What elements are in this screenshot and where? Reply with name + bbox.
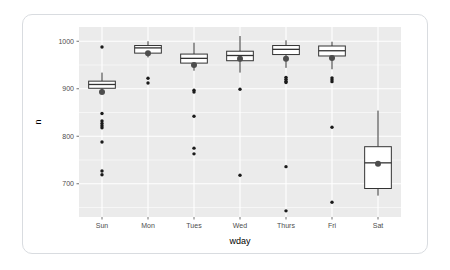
- outlier-point: [192, 90, 195, 93]
- box-iqr: [273, 46, 300, 55]
- outlier-point: [330, 80, 333, 83]
- y-tick-label: 900: [62, 85, 74, 92]
- x-axis-ticks: SunMonTuesWedThursFriSat: [96, 217, 384, 229]
- mean-point: [99, 89, 105, 95]
- outlier-point: [146, 77, 149, 80]
- y-tick-label: 1000: [58, 38, 74, 45]
- outlier-point: [100, 126, 103, 129]
- mean-point: [329, 55, 335, 61]
- outlier-point: [192, 152, 195, 155]
- x-tick-label: Wed: [233, 222, 247, 229]
- outlier-point: [100, 112, 103, 115]
- outlier-point: [238, 88, 241, 91]
- boxplot-chart: 7008009001000 SunMonTuesWedThursFriSat n…: [23, 15, 429, 255]
- x-tick-label: Thurs: [277, 222, 295, 229]
- outlier-point: [330, 126, 333, 129]
- outlier-point: [238, 174, 241, 177]
- outlier-point: [284, 209, 287, 212]
- outlier-point: [100, 169, 103, 172]
- mean-point: [237, 56, 243, 62]
- outlier-point: [192, 115, 195, 118]
- outlier-point: [330, 201, 333, 204]
- y-axis-title: n: [33, 119, 43, 124]
- mean-point: [283, 56, 289, 62]
- mean-point: [375, 161, 381, 167]
- outlier-point: [284, 81, 287, 84]
- outlier-point: [284, 165, 287, 168]
- y-axis-ticks: 7008009001000: [58, 38, 79, 188]
- box-iqr: [365, 147, 392, 189]
- outlier-point: [100, 140, 103, 143]
- outlier-point: [146, 81, 149, 84]
- outlier-point: [100, 45, 103, 48]
- mean-point: [145, 50, 151, 56]
- x-tick-label: Sat: [373, 222, 384, 229]
- outlier-point: [100, 173, 103, 176]
- y-tick-label: 800: [62, 133, 74, 140]
- x-tick-label: Fri: [328, 222, 337, 229]
- x-tick-label: Tues: [186, 222, 202, 229]
- x-tick-label: Mon: [141, 222, 155, 229]
- chart-card: 7008009001000 SunMonTuesWedThursFriSat n…: [22, 14, 428, 254]
- x-axis-title: wday: [228, 236, 251, 246]
- x-tick-label: Sun: [96, 222, 109, 229]
- outlier-point: [192, 146, 195, 149]
- y-tick-label: 700: [62, 180, 74, 187]
- mean-point: [191, 62, 197, 68]
